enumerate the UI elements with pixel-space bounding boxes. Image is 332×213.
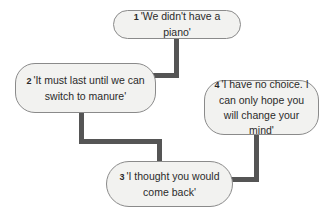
node-number: 4	[214, 80, 219, 90]
node-text: 'It must last until we can switch to man…	[33, 74, 144, 102]
node-number: 1	[134, 12, 139, 22]
connector-4-3-vertical	[254, 134, 259, 181]
node-4: 4'I have no choice. I can only hope you …	[204, 80, 319, 135]
connector-2-3-horizontal	[79, 139, 162, 144]
connector-1-2-vertical	[174, 38, 179, 77]
connector-1-2-horizontal	[152, 73, 179, 78]
node-number: 2	[26, 76, 31, 86]
node-1: 1'We didn't have a piano'	[113, 10, 241, 39]
node-3: 3'I thought you would come back'	[106, 161, 233, 207]
node-number: 3	[119, 172, 124, 182]
node-text: 'We didn't have a piano'	[141, 10, 221, 38]
connector-4-3-horizontal	[230, 177, 259, 182]
node-text: 'I thought you would come back'	[126, 170, 219, 198]
connector-2-3-vertical-b	[157, 139, 162, 163]
node-2: 2'It must last until we can switch to ma…	[15, 63, 156, 113]
node-text: 'I have no choice. I can only hope you w…	[219, 78, 309, 136]
